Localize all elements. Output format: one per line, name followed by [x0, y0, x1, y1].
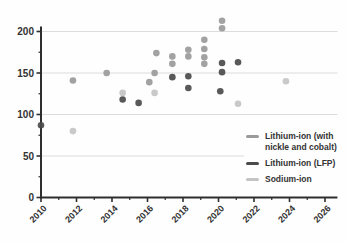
y-tick-label: 50	[23, 151, 35, 162]
data-point	[185, 73, 192, 80]
data-point	[219, 17, 226, 24]
x-tick-label: 2020	[205, 203, 226, 224]
x-tick-label: 2022	[241, 203, 262, 224]
data-point	[135, 100, 142, 107]
data-point	[219, 60, 226, 67]
data-point	[38, 122, 45, 129]
legend: Lithium-ion (with nickle and cobalt)Lith…	[244, 130, 339, 186]
data-point	[169, 74, 176, 81]
data-point	[119, 90, 126, 97]
data-point	[151, 70, 158, 77]
x-tick-label: 2024	[276, 203, 297, 224]
legend-item: Lithium-ion (LFP)	[246, 158, 337, 169]
data-point	[153, 50, 160, 57]
data-point	[70, 77, 77, 84]
legend-label: Sodium-ion	[265, 174, 312, 185]
x-tick-label: 2018	[170, 203, 191, 224]
legend-swatch	[246, 135, 259, 138]
y-tick-label: 150	[17, 68, 34, 79]
data-point	[169, 61, 176, 68]
x-tick-label: 2010	[28, 203, 49, 224]
data-point	[201, 46, 208, 53]
legend-item: Lithium-ion (with nickle and cobalt)	[246, 131, 337, 153]
legend-item: Sodium-ion	[246, 174, 337, 185]
data-point	[201, 61, 208, 68]
plot-area: 0501001502002010201220142016201820202022…	[0, 0, 347, 243]
y-tick-label: 200	[17, 26, 34, 37]
data-point	[151, 90, 158, 97]
data-point	[235, 59, 242, 66]
data-point	[185, 46, 192, 53]
y-tick-label: 0	[28, 192, 34, 203]
data-point	[119, 96, 126, 103]
data-point	[219, 69, 226, 76]
data-point	[235, 100, 242, 107]
data-point	[185, 85, 192, 92]
x-tick-label: 2014	[99, 203, 120, 224]
x-tick-label: 2016	[134, 203, 155, 224]
legend-swatch	[246, 178, 259, 181]
data-point	[219, 25, 226, 32]
data-point	[70, 128, 77, 135]
y-tick-label: 100	[17, 109, 34, 120]
legend-swatch	[246, 162, 259, 165]
data-point	[185, 53, 192, 60]
legend-label: Lithium-ion (with nickle and cobalt)	[265, 131, 337, 153]
data-point	[217, 88, 224, 95]
data-point	[201, 37, 208, 44]
data-point	[169, 53, 176, 60]
data-point	[103, 70, 110, 77]
data-point	[146, 79, 153, 86]
x-tick-label: 2012	[63, 203, 84, 224]
legend-label: Lithium-ion (LFP)	[265, 158, 335, 169]
data-point	[283, 78, 290, 85]
x-tick-label: 2026	[312, 203, 333, 224]
data-point	[201, 54, 208, 61]
scatter-chart: 0501001502002010201220142016201820202022…	[0, 0, 347, 243]
